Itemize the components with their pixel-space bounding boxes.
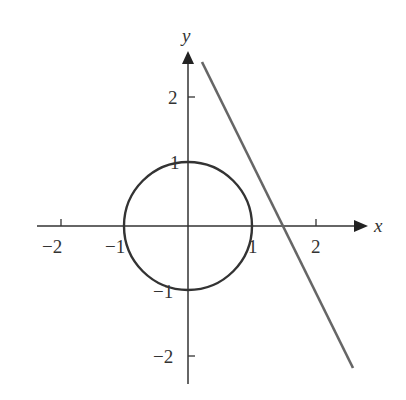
x-tick-label: 2 — [311, 236, 321, 257]
line-y-eq-neg2x-plus-3 — [202, 62, 353, 368]
x-tick-label: −1 — [105, 236, 125, 257]
y-tick-label: −2 — [153, 346, 173, 367]
y-axis-arrow-icon — [182, 51, 194, 64]
y-tick-label: 2 — [168, 87, 178, 108]
x-axis-arrow-icon — [354, 220, 368, 232]
x-tick-label: −2 — [42, 236, 62, 257]
plot-svg: x y −2 −1 1 2 2 1 −1 −2 — [0, 0, 406, 400]
y-axis-label: y — [180, 25, 191, 46]
x-ticks: −2 −1 1 2 — [42, 219, 321, 257]
x-axis-label: x — [373, 215, 383, 236]
coordinate-diagram: x y −2 −1 1 2 2 1 −1 −2 — [0, 0, 406, 400]
